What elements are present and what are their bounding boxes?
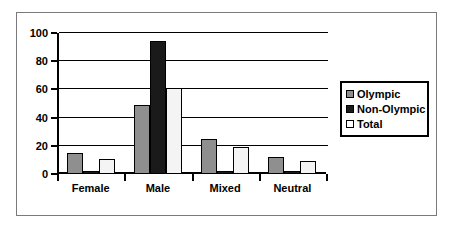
x-category-label-female: Female — [72, 182, 110, 194]
bar-male-total — [166, 88, 182, 174]
x-category-label-mixed: Mixed — [210, 182, 241, 194]
legend-item-olympic[interactable]: Olympic — [346, 87, 423, 101]
y-tick-mark-80 — [51, 60, 57, 62]
y-tick-label-20: 20 — [36, 140, 48, 152]
x-tick-2 — [259, 174, 261, 181]
legend-swatch-total-icon — [346, 120, 354, 128]
bar-neutral-olympic — [268, 157, 284, 174]
y-tick-label-60: 60 — [36, 83, 48, 95]
legend-label: Non-Olympic — [357, 104, 425, 115]
bar-female-total — [99, 159, 115, 175]
y-tick-mark-60 — [51, 88, 57, 90]
bar-male-olympic — [134, 105, 150, 174]
y-tick-label-40: 40 — [36, 112, 48, 124]
y-tick-mark-40 — [51, 117, 57, 119]
legend-item-total[interactable]: Total — [346, 117, 423, 131]
bar-male-non-olympic — [150, 41, 166, 174]
y-axis: 020406080100 — [16, 33, 54, 174]
chart-legend: OlympicNon-OlympicTotal — [340, 81, 429, 137]
legend-swatch-olympic-icon — [346, 90, 354, 98]
x-category-label-neutral: Neutral — [273, 182, 311, 194]
y-tick-mark-20 — [51, 145, 57, 147]
x-tick-origin — [57, 174, 59, 181]
legend-swatch-non-olympic-icon — [346, 105, 354, 113]
legend-item-non-olympic[interactable]: Non-Olympic — [346, 102, 423, 116]
x-tick-1 — [192, 174, 194, 181]
bar-mixed-non-olympic — [217, 171, 233, 174]
bar-mixed-olympic — [201, 139, 217, 174]
x-tick-0 — [124, 174, 126, 181]
bars-layer — [57, 33, 326, 174]
y-tick-label-80: 80 — [36, 55, 48, 67]
bar-female-non-olympic — [83, 171, 99, 174]
bar-neutral-total — [300, 161, 316, 174]
y-tick-label-0: 0 — [42, 168, 48, 180]
x-category-label-male: Male — [146, 182, 170, 194]
y-tick-label-100: 100 — [30, 27, 48, 39]
legend-label: Olympic — [357, 89, 400, 100]
bar-mixed-total — [233, 147, 249, 174]
legend-label: Total — [357, 119, 382, 130]
y-tick-mark-100 — [51, 32, 57, 34]
bar-female-olympic — [67, 153, 83, 174]
bar-neutral-non-olympic — [284, 171, 300, 174]
x-tick-3 — [326, 174, 328, 181]
bar-chart-figure: 020406080100 OlympicNon-OlympicTotal Fem… — [0, 0, 454, 232]
